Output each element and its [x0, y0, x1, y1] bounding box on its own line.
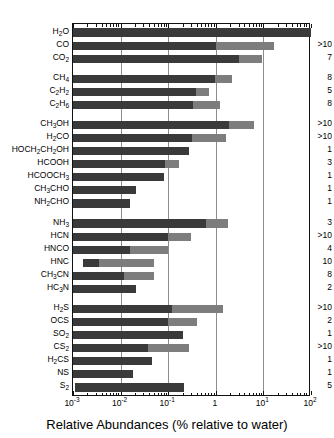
y-axis-label-CO: CO	[0, 40, 69, 49]
comet-count-CH3CN: 8	[327, 270, 332, 279]
comet-count-CS2: >10	[318, 342, 332, 351]
y-axis-label-CH3CN: CH3CN	[0, 270, 69, 279]
comet-count-CO: >10	[318, 40, 332, 49]
bar-segment-lower	[73, 160, 165, 168]
comet-count-OCS: 2	[327, 316, 332, 325]
bar-SO2	[73, 331, 183, 339]
x-tick-label: 1	[212, 399, 217, 408]
bar-NH2CHO	[73, 199, 130, 207]
bar-H2CO	[73, 134, 226, 142]
y-axis-label-H2CO: H2CO	[0, 132, 69, 141]
y-axis-label-H2CS: H2CS	[0, 355, 69, 364]
bar-row	[73, 75, 309, 83]
bar-segment-lower	[73, 370, 133, 378]
x-axis-title: Relative Abundances (% relative to water…	[0, 417, 334, 432]
plot-area	[72, 23, 310, 396]
bar-segment-lower	[73, 121, 229, 129]
bar-row	[73, 173, 309, 181]
bar-segment-lower	[83, 259, 99, 267]
bar-segment-upper	[168, 233, 191, 241]
bar-HNCO	[73, 246, 168, 254]
comet-count-CH3CHO: 1	[327, 184, 332, 193]
bar-segment-lower	[73, 55, 239, 63]
bar-segment-lower	[73, 285, 136, 293]
bar-segment-lower	[73, 219, 206, 227]
y-axis-label-HNC: HNC	[0, 257, 69, 266]
bar-row	[73, 28, 309, 36]
bar-HCOOH	[73, 160, 179, 168]
bar-rows	[73, 24, 309, 395]
y-axis-label-NH2CHO: NH2CHO	[0, 197, 69, 206]
y-axis-label-S2: S2	[0, 381, 69, 390]
bar-row	[73, 55, 309, 63]
bar-row	[73, 344, 309, 352]
bar-HC3N	[73, 285, 136, 293]
bar-C2H6	[73, 101, 220, 109]
comet-count-S2: 5	[327, 381, 332, 390]
bar-segment-lower	[73, 88, 196, 96]
bar-segment-upper	[148, 344, 190, 352]
bar-row	[73, 357, 309, 365]
comet-count-H2CS: 1	[327, 355, 332, 364]
bar-segment-lower	[73, 331, 183, 339]
bar-row	[73, 370, 309, 378]
bar-row	[73, 101, 309, 109]
bar-segment-lower	[73, 42, 216, 50]
comet-count-SO2: 1	[327, 329, 332, 338]
bar-C2H2	[73, 88, 209, 96]
bar-OCS	[73, 318, 197, 326]
bar-segment-upper	[192, 134, 225, 142]
comet-count-HC3N: 2	[327, 283, 332, 292]
y-axis-label-HC3N: HC3N	[0, 283, 69, 292]
x-tick-label: 10-3	[64, 399, 79, 408]
bar-segment-upper	[124, 272, 154, 280]
bar-NH3	[73, 219, 228, 227]
bar-segment-lower	[73, 101, 193, 109]
bar-row	[73, 383, 309, 391]
bar-segment-upper	[99, 259, 154, 267]
bar-S2	[75, 383, 185, 391]
comet-count-NS: 1	[327, 368, 332, 377]
bar-NS	[73, 370, 133, 378]
comet-count-C2H6: 8	[327, 99, 332, 108]
bar-row	[73, 318, 309, 326]
comet-count-CH3OH: >10	[318, 119, 332, 128]
comet-count-H2S: >10	[318, 303, 332, 312]
bar-HCOOCH3	[73, 173, 164, 181]
y-axis-label-H2S: H2S	[0, 303, 69, 312]
comet-count-HCOOH: 3	[327, 158, 332, 167]
comet-count-H2CO: >10	[318, 132, 332, 141]
y-axis-label-CS2: CS2	[0, 342, 69, 351]
bar-row	[73, 88, 309, 96]
bar-segment-lower	[73, 28, 311, 36]
bar-CH3CN	[73, 272, 154, 280]
y-axis-label-CO2: CO2	[0, 53, 69, 62]
comet-count-NH3: 3	[327, 218, 332, 227]
x-tick-label: 10-1	[160, 399, 175, 408]
bar-row	[73, 134, 309, 142]
bar-segment-upper	[216, 42, 275, 50]
y-axis-label-H2O: H2O	[0, 27, 69, 36]
y-axis-label-C2H2: C2H2	[0, 86, 69, 95]
bar-segment-upper	[130, 246, 168, 254]
bar-segment-lower	[73, 357, 152, 365]
y-axis-label-HOCH2CH2OH: HOCH2CH2OH	[0, 145, 69, 154]
bar-H2CS	[73, 357, 152, 365]
bar-row	[73, 285, 309, 293]
bar-segment-lower	[73, 186, 136, 194]
bar-row	[73, 331, 309, 339]
bar-segment-upper	[168, 318, 197, 326]
bar-row	[73, 199, 309, 207]
bar-segment-lower	[75, 383, 185, 391]
bar-segment-lower	[73, 246, 130, 254]
y-axis-label-HCOOH: HCOOH	[0, 158, 69, 167]
comet-count-HNC: 10	[323, 257, 332, 266]
bar-segment-upper	[206, 219, 228, 227]
y-axis-label-NH3: NH3	[0, 218, 69, 227]
bar-segment-upper	[229, 121, 254, 129]
bar-segment-upper	[196, 88, 209, 96]
bar-row	[73, 233, 309, 241]
comet-count-HOCH2CH2OH: 1	[327, 145, 332, 154]
comet-abundance-figure: H2OCOCO2CH4C2H2C2H6CH3OHH2COHOCH2CH2OHHC…	[0, 0, 334, 438]
bar-CH3CHO	[73, 186, 136, 194]
